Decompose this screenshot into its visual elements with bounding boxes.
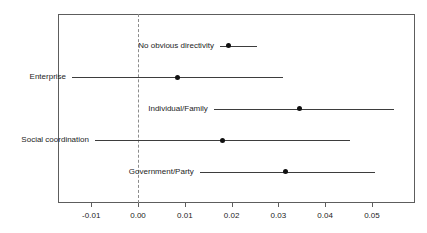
x-axis-tick-label: 0.03 [271, 211, 287, 220]
point-estimate-marker [175, 75, 180, 80]
row-label: Enterprise [30, 73, 66, 81]
x-axis-tick-label: 0.01 [177, 211, 193, 220]
x-axis: -0.010.000.010.020.030.040.05 [58, 203, 415, 233]
x-axis-tick-label: 0.04 [317, 211, 333, 220]
x-axis-tick [325, 203, 326, 207]
confidence-interval-line [214, 109, 394, 110]
x-axis-tick [91, 203, 92, 207]
row-label: Individual/Family [148, 105, 208, 113]
x-axis-tick-label: 0.05 [364, 211, 380, 220]
x-axis-tick [138, 203, 139, 207]
x-axis-tick [278, 203, 279, 207]
x-axis-tick [185, 203, 186, 207]
x-axis-tick-label: -0.01 [82, 211, 100, 220]
row-label: Social coordination [21, 136, 89, 144]
row-label: Government/Party [129, 168, 194, 176]
point-estimate-marker [226, 43, 231, 48]
chart-title [0, 0, 427, 1]
x-axis-tick-label: 0.02 [224, 211, 240, 220]
x-axis-tick-label: 0.00 [130, 211, 146, 220]
row-label: No obvious directivity [138, 42, 214, 50]
point-estimate-marker [220, 138, 225, 143]
x-axis-tick [232, 203, 233, 207]
point-estimate-marker [297, 106, 302, 111]
forest-plot-figure: No obvious directivityEnterpriseIndividu… [0, 0, 427, 233]
x-axis-tick [372, 203, 373, 207]
